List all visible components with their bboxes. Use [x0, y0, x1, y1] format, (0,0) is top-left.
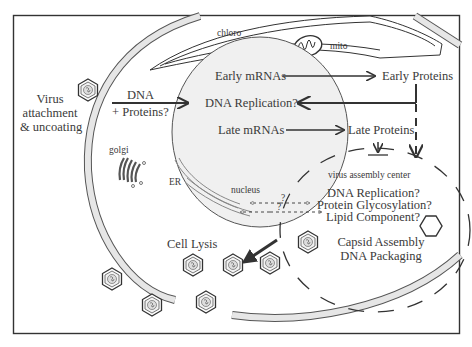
assembly-center-label: virus assembly center — [328, 171, 410, 181]
early-mrnas-label: Early mRNAs — [215, 70, 286, 83]
late-proteins-label: Late Proteins — [348, 124, 414, 137]
lipid-component-label: Lipid Component? — [326, 211, 420, 224]
entry-line-1: Virus — [20, 92, 80, 106]
golgi-label: golgi — [109, 146, 129, 156]
virus-entry-label: Virus attachment & uncoating — [20, 92, 80, 134]
cell-lysis-label: Cell Lysis — [167, 238, 217, 251]
entry-line-2: attachment — [20, 106, 80, 120]
entry-line-3: & uncoating — [20, 120, 80, 134]
capsid-line-2: DNA Packaging — [326, 249, 436, 263]
mitochondrion-label: mito — [330, 42, 347, 52]
capsid-assembly-label: Capsid Assembly DNA Packaging — [326, 235, 436, 263]
early-proteins-label: Early Proteins — [382, 70, 453, 83]
uncertain-mark-2: ? — [277, 203, 281, 213]
capsid-line-1: Capsid Assembly — [326, 235, 436, 249]
late-mrnas-label: Late mRNAs — [218, 124, 284, 137]
dna-cargo-label: DNA — [127, 89, 154, 102]
proteins-cargo-label: + Proteins? — [112, 106, 169, 119]
chloroplast-label: chloro — [217, 29, 241, 39]
dna-replication-nucleus-label: DNA Replication? — [205, 97, 298, 110]
uncertain-mark-1: ? — [281, 194, 285, 204]
nucleus-label: nucleus — [231, 186, 260, 196]
er-label: ER — [169, 178, 181, 188]
